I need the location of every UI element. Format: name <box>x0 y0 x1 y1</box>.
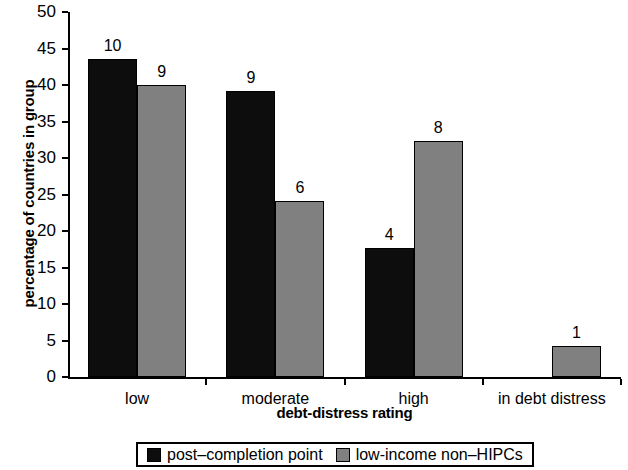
y-tick <box>62 84 68 86</box>
x-tick <box>205 379 207 385</box>
bar <box>275 201 324 377</box>
y-axis-line <box>68 12 70 378</box>
y-tick <box>62 376 68 378</box>
bar <box>365 248 414 377</box>
y-tick <box>62 303 68 305</box>
legend-swatch-icon <box>147 448 161 462</box>
legend-label: post–completion point <box>167 447 323 463</box>
legend-swatch-icon <box>336 448 350 462</box>
y-tick <box>62 267 68 269</box>
bar <box>137 85 186 377</box>
bar-value-label: 9 <box>226 69 275 87</box>
bar-value-label: 6 <box>275 179 324 197</box>
legend-label: low-income non–HIPCs <box>356 447 523 463</box>
y-tick-label: 20 <box>4 222 56 239</box>
y-tick-label: 45 <box>4 40 56 57</box>
y-tick-label: 35 <box>4 113 56 130</box>
legend-entry: post–completion point <box>147 447 323 463</box>
y-tick-label: 40 <box>4 76 56 93</box>
x-tick <box>620 379 622 385</box>
y-tick-label: 25 <box>4 186 56 203</box>
bar <box>226 91 275 377</box>
y-tick-label: 50 <box>4 3 56 20</box>
bar <box>414 141 463 377</box>
y-tick <box>62 48 68 50</box>
bar-value-label: 8 <box>414 119 463 137</box>
legend: post–completion pointlow-income non–HIPC… <box>136 442 534 467</box>
y-tick-label: 5 <box>4 332 56 349</box>
y-tick-label: 10 <box>4 295 56 312</box>
bar-value-label: 1 <box>552 324 601 342</box>
y-tick-label: 0 <box>4 368 56 385</box>
y-tick <box>62 230 68 232</box>
y-tick <box>62 194 68 196</box>
bar-value-label: 10 <box>88 37 137 55</box>
plot-area: 05101520253035404550 10996481 lowmoderat… <box>68 12 621 377</box>
y-tick <box>62 340 68 342</box>
y-tick-label: 15 <box>4 259 56 276</box>
y-tick <box>62 157 68 159</box>
x-tick <box>344 379 346 385</box>
y-tick-label: 30 <box>4 149 56 166</box>
bar-value-label: 9 <box>137 63 186 81</box>
bar-value-label: 4 <box>365 226 414 244</box>
bar <box>552 346 601 377</box>
x-tick <box>482 379 484 385</box>
legend-entry: low-income non–HIPCs <box>336 447 523 463</box>
bar-chart: percentage of countries in group 0510152… <box>0 0 628 470</box>
x-axis-title: debt-distress rating <box>68 404 621 421</box>
y-tick <box>62 121 68 123</box>
y-tick <box>62 11 68 13</box>
bar <box>88 59 137 377</box>
